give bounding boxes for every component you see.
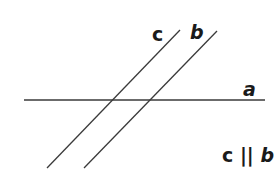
label-line-b: b xyxy=(190,23,204,42)
label-line-c: c xyxy=(152,25,163,44)
relation-left: c xyxy=(222,144,233,166)
label-line-a: a xyxy=(243,80,256,99)
relation-right: b xyxy=(260,144,274,166)
diagram-canvas: c b a c || b xyxy=(0,0,279,179)
parallel-relation: c || b xyxy=(222,146,274,165)
line-c xyxy=(47,30,180,168)
parallel-symbol: || xyxy=(240,144,254,166)
